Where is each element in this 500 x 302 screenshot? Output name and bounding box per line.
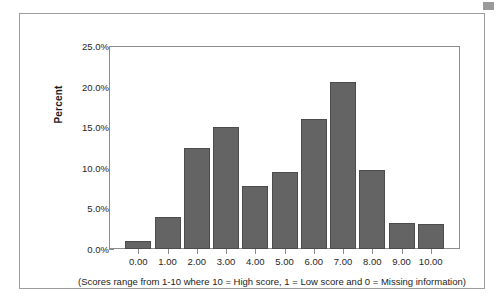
bar <box>389 223 415 249</box>
x-tick-mark <box>255 249 256 254</box>
x-tick-label: 10.00 <box>409 256 453 267</box>
x-tick-mark <box>285 249 286 254</box>
x-tick-mark <box>226 249 227 254</box>
bar <box>359 170 385 249</box>
bar <box>418 224 444 249</box>
x-tick-mark <box>402 249 403 254</box>
bar <box>213 127 239 249</box>
chart-caption: (Scores range from 1-10 where 10 = High … <box>39 276 500 287</box>
x-tick-mark <box>138 249 139 254</box>
bar <box>242 186 268 249</box>
x-tick-mark <box>168 249 169 254</box>
bar <box>330 82 356 249</box>
y-axis-ticks: 0.0%5.0%10.0%15.0%20.0%25.0% <box>56 46 109 249</box>
y-tick-label: 20.0% <box>63 81 109 92</box>
corner-artifact-mark <box>483 2 494 10</box>
x-tick-mark <box>197 249 198 254</box>
bar <box>125 241 151 249</box>
figure-frame: Percent 0.0%5.0%10.0%15.0%20.0%25.0% 0.0… <box>19 13 485 289</box>
y-tick-label: 25.0% <box>63 41 109 52</box>
x-tick-mark <box>314 249 315 254</box>
bar <box>272 172 298 249</box>
bar <box>155 217 181 249</box>
y-tick-label: 10.0% <box>63 162 109 173</box>
x-tick-mark <box>431 249 432 254</box>
x-tick-mark <box>343 249 344 254</box>
y-tick-label: 5.0% <box>63 203 109 214</box>
bar-series <box>109 46 460 249</box>
y-tick-label: 0.0% <box>63 244 109 255</box>
y-tick-label: 15.0% <box>63 122 109 133</box>
x-tick-mark <box>372 249 373 254</box>
x-axis-ticks: 0.001.002.003.004.005.006.007.008.009.00… <box>109 249 460 275</box>
bar <box>301 119 327 249</box>
bar <box>184 148 210 249</box>
